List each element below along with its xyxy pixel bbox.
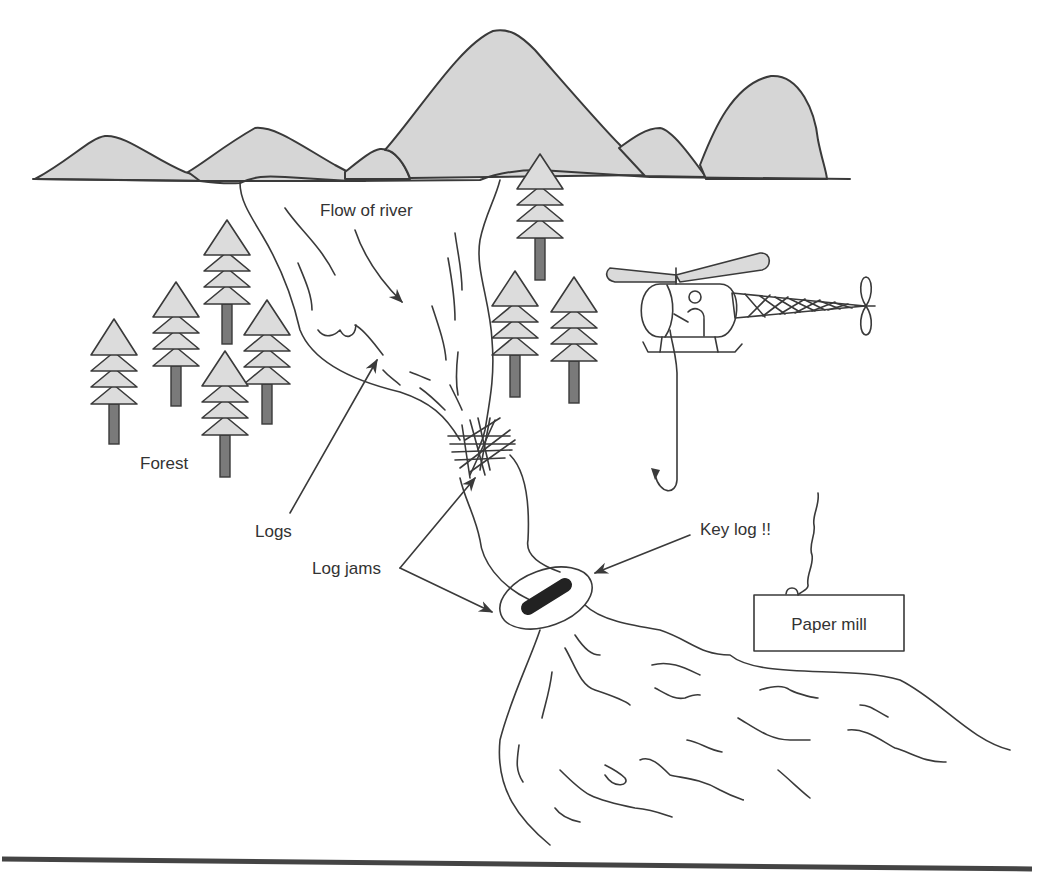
mountain-range bbox=[33, 30, 850, 183]
key-log-label: Key log !! bbox=[700, 520, 771, 539]
tree-icon bbox=[492, 271, 538, 397]
bottom-rule bbox=[2, 859, 1032, 869]
flow-of-river-label: Flow of river bbox=[320, 201, 413, 220]
log-jam-diagram: Paper mill Flow of river Forest Logs Log… bbox=[0, 0, 1040, 879]
forest-trees-left bbox=[91, 220, 290, 477]
logs-arrow bbox=[290, 360, 377, 513]
log-jams-arrow-lower bbox=[400, 568, 492, 612]
log-jams-label: Log jams bbox=[312, 559, 381, 578]
paper-mill-label: Paper mill bbox=[791, 615, 867, 634]
logs-label: Logs bbox=[255, 522, 292, 541]
paper-mill-building: Paper mill bbox=[754, 493, 904, 651]
tree-icon bbox=[244, 300, 290, 424]
key-log-circled bbox=[491, 555, 600, 640]
flow-arrow bbox=[355, 230, 402, 302]
tree-icon bbox=[551, 277, 597, 403]
tree-icon bbox=[91, 319, 137, 444]
forest-label: Forest bbox=[140, 454, 188, 473]
tree-icon bbox=[153, 282, 199, 406]
log-jams-arrow-upper bbox=[400, 478, 475, 568]
tree-icon bbox=[202, 351, 248, 477]
key-log-arrow bbox=[595, 535, 690, 573]
helicopter-with-hook bbox=[607, 253, 875, 491]
tree-icon bbox=[204, 220, 250, 344]
upper-log-jam bbox=[448, 418, 515, 478]
forest-trees-right bbox=[492, 154, 597, 403]
